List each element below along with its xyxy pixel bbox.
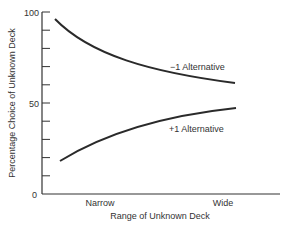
series-plus-1-label: +1 Alternative [169,124,224,134]
series-minus-1-label: −1 Alternative [170,62,225,72]
chart: 100 50 0 Narrow Wide Range of Unknown De… [0,0,286,225]
x-axis-label: Range of Unknown Deck [110,211,210,221]
xtick-narrow: Narrow [85,198,115,208]
ytick-50: 50 [29,99,39,109]
series-plus-1-line [60,108,236,161]
ytick-0: 0 [32,190,37,200]
ytick-100: 100 [24,8,39,18]
series-minus-1-line [55,19,235,83]
y-axis-label: Percentage Choice of Unknown Deck [7,28,17,178]
xtick-wide: Wide [213,198,234,208]
y-ticks [42,12,50,176]
